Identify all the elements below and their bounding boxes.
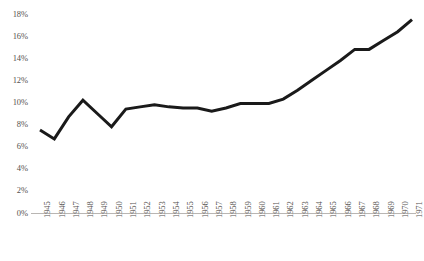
- x-tick-label: 1963: [301, 201, 310, 218]
- y-tick-label: 6%: [0, 142, 28, 151]
- x-tick-label: 1957: [215, 201, 224, 218]
- x-tick-label: 1967: [358, 201, 367, 218]
- x-tick-label: 1953: [158, 201, 167, 218]
- x-tick-label: 1965: [329, 201, 338, 218]
- y-axis: 0%2%4%6%8%10%12%14%16%18%: [0, 0, 30, 261]
- x-tick-label: 1969: [387, 201, 396, 218]
- x-tick-label: 1946: [58, 201, 67, 218]
- x-tick-label: 1966: [344, 201, 353, 218]
- x-tick-label: 1956: [201, 201, 210, 218]
- x-tick-label: 1964: [315, 201, 324, 218]
- y-tick-label: 4%: [0, 164, 28, 173]
- x-tick-label: 1954: [172, 201, 181, 218]
- x-tick-label: 1960: [258, 201, 267, 218]
- y-tick-label: 18%: [0, 10, 28, 19]
- x-tick-label: 1971: [415, 201, 424, 218]
- x-tick-label: 1961: [272, 201, 281, 218]
- x-tick-label: 1970: [401, 201, 410, 218]
- x-tick-label: 1968: [372, 201, 381, 218]
- y-tick-label: 0%: [0, 209, 28, 218]
- y-tick-label: 16%: [0, 32, 28, 41]
- x-tick-label: 1955: [186, 201, 195, 218]
- x-tick-label: 1948: [86, 201, 95, 218]
- x-tick-label: 1951: [129, 201, 138, 218]
- y-tick-label: 14%: [0, 54, 28, 63]
- x-tick-label: 1947: [72, 201, 81, 218]
- x-tick-label: 1958: [229, 201, 238, 218]
- y-tick-label: 10%: [0, 98, 28, 107]
- x-axis: 1945194619471948194919501951195219531954…: [31, 0, 420, 261]
- y-tick-label: 8%: [0, 120, 28, 129]
- x-tick-label: 1959: [244, 201, 253, 218]
- x-tick-label: 1945: [43, 201, 52, 218]
- y-tick-label: 12%: [0, 76, 28, 85]
- x-tick-label: 1949: [100, 201, 109, 218]
- y-tick-label: 2%: [0, 186, 28, 195]
- x-tick-label: 1952: [143, 201, 152, 218]
- x-tick-label: 1950: [115, 201, 124, 218]
- x-tick-label: 1962: [286, 201, 295, 218]
